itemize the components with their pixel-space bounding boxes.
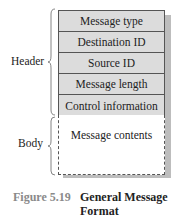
figure-title: General Message Format (80, 190, 168, 215)
body-label: Body (18, 137, 43, 149)
header-shadow (165, 15, 171, 178)
field-control-information: Control information (59, 95, 164, 116)
figure-title-line2: Format (80, 204, 168, 215)
body-brace-icon (48, 116, 56, 176)
field-source-id: Source ID (59, 53, 164, 74)
body-section: Message contents (58, 115, 165, 175)
body-shadow (63, 175, 171, 178)
header-section: Message type Destination ID Source ID Me… (58, 10, 165, 117)
figure-title-line1: General Message (80, 190, 168, 204)
field-message-contents: Message contents (71, 129, 152, 141)
header-brace-icon (48, 8, 56, 116)
figure-number: Figure 5.19 (13, 190, 71, 205)
header-label: Header (11, 55, 44, 67)
field-destination-id: Destination ID (59, 32, 164, 53)
field-message-type: Message type (59, 11, 164, 32)
field-message-length: Message length (59, 74, 164, 95)
